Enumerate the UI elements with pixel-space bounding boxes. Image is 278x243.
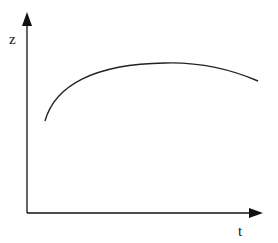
x-axis-arrow-icon [249, 208, 263, 218]
diagram-canvas: z t [0, 0, 278, 243]
x-axis-label: t [238, 223, 243, 239]
y-axis-label: z [9, 31, 16, 47]
curve [45, 63, 258, 121]
y-axis-arrow-icon [22, 12, 32, 26]
